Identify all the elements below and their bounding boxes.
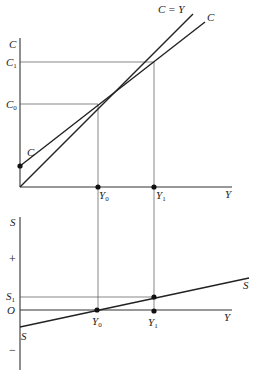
c-intercept-label: C [27, 146, 35, 158]
y0-label-bottom: Y0 [92, 315, 102, 329]
c-axis-label: C [9, 38, 17, 50]
y0-label-top: Y0 [99, 189, 109, 203]
consumption-savings-diagram: C C1 C0 C C = Y C Y0 Y1 Y S + − S1 O S S… [0, 0, 260, 378]
s-intercept-label: S [21, 330, 27, 342]
c1-label: C1 [6, 56, 17, 70]
c0-label: C0 [6, 98, 17, 112]
s1-label: S1 [6, 290, 16, 304]
y1-label-bottom: Y1 [148, 316, 158, 330]
c-intercept-dot [17, 163, 22, 168]
forty-five-degree-line [20, 14, 193, 187]
origin-label: O [7, 304, 15, 316]
y0-dot-bottom [94, 307, 99, 312]
plus-sign: + [9, 252, 16, 266]
forty-five-degree-label: C = Y [158, 3, 186, 15]
consumption-function-label: C [207, 11, 215, 23]
y1-dot-bottom [151, 308, 156, 313]
savings-function-label: S [243, 279, 249, 291]
bottom-panel: S + − S1 O S S Y0 Y1 Y [6, 200, 249, 370]
y1-label-top: Y1 [156, 189, 166, 203]
top-panel: C C1 C0 C C = Y C Y0 Y1 Y [6, 3, 233, 203]
savings-function-line [20, 278, 249, 327]
y-axis-label-top: Y [225, 188, 233, 200]
consumption-function-line [20, 22, 205, 166]
s-axis-label: S [10, 216, 16, 228]
minus-sign: − [9, 343, 16, 357]
y-axis-label-bottom: Y [224, 311, 232, 323]
s1-dot [151, 294, 156, 299]
